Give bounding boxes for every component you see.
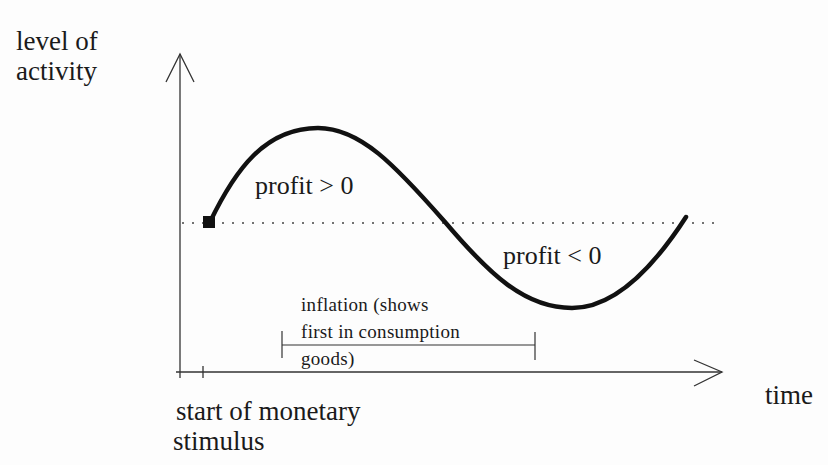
- start-marker-square: [203, 216, 215, 228]
- start-marker-label-line1: start of monetary: [176, 396, 360, 426]
- start-marker-label: start of monetary stimulus: [176, 396, 360, 456]
- y-axis: [166, 54, 194, 378]
- inflation-annotation-line3: goods): [301, 345, 460, 372]
- diagram-canvas: [0, 0, 828, 465]
- profit-positive-label: profit > 0: [255, 173, 353, 199]
- y-axis-label-line2: activity: [16, 56, 98, 86]
- business-cycle-diagram: level of activity time start of monetary…: [0, 0, 828, 465]
- x-axis-arrow-icon: [694, 360, 722, 386]
- x-axis-label: time: [765, 380, 813, 410]
- y-axis-label-line1: level of: [16, 26, 98, 56]
- y-axis-label: level of activity: [16, 26, 98, 86]
- start-marker-label-line2: stimulus: [173, 426, 360, 456]
- activity-curve: [210, 128, 686, 308]
- inflation-annotation: inflation (shows first in consumption go…: [301, 291, 460, 372]
- inflation-annotation-line2: first in consumption: [301, 318, 460, 345]
- profit-negative-label: profit < 0: [503, 243, 601, 269]
- inflation-annotation-line1: inflation (shows: [301, 291, 460, 318]
